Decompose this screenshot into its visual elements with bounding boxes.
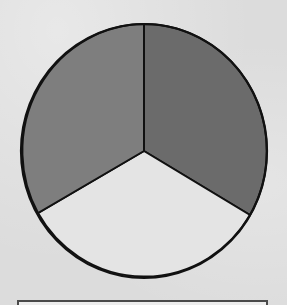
pie-diagram <box>0 0 287 305</box>
answer-box[interactable] <box>17 300 268 305</box>
diagram-stage <box>0 0 287 305</box>
